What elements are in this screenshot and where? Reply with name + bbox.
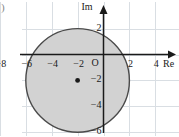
y-tick-label: −4 bbox=[90, 100, 102, 110]
data-points bbox=[75, 78, 80, 83]
y-tick-label: −6 bbox=[90, 126, 102, 136]
imaginary-axis-arrow-icon bbox=[100, 5, 108, 14]
y-tick-label: 2 bbox=[90, 23, 102, 33]
origin-label: O bbox=[92, 58, 99, 68]
argand-diagram-figure: ) Re Im O −8−6−4−2242−2−4−6 bbox=[0, 0, 179, 137]
y-tick-label: −2 bbox=[90, 74, 102, 84]
axis-label-im: Im bbox=[82, 2, 93, 12]
x-tick-label: −2 bbox=[73, 59, 85, 69]
x-tick-label: 4 bbox=[150, 59, 162, 69]
complex-plane-plot bbox=[0, 0, 179, 137]
x-tick-label: −6 bbox=[21, 59, 33, 69]
x-tick-label: 2 bbox=[124, 59, 136, 69]
x-tick-label: −4 bbox=[47, 59, 59, 69]
axis-label-re: Re bbox=[163, 59, 174, 69]
circle-center bbox=[75, 78, 80, 83]
x-tick-label: −8 bbox=[0, 59, 7, 69]
